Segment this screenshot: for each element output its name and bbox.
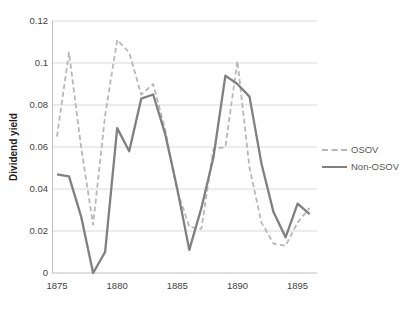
y-tick-label: 0.06 <box>30 141 49 152</box>
osov-dashed-line-sample <box>322 149 347 151</box>
legend-label-non-osov: Non-OSOV <box>351 161 399 172</box>
y-tick-label: 0.1 <box>35 57 48 68</box>
x-tick-label: 1885 <box>167 280 188 291</box>
y-tick-label: 0.02 <box>30 225 49 236</box>
non-osov-solid-line-sample <box>322 166 347 168</box>
legend-label-osov: OSOV <box>351 144 378 155</box>
x-tick-label: 1895 <box>287 280 308 291</box>
x-tick-label: 1880 <box>107 280 128 291</box>
legend-item-osov: OSOV <box>322 144 399 155</box>
x-tick-label: 1890 <box>227 280 248 291</box>
legend-item-non-osov: Non-OSOV <box>322 161 399 172</box>
y-tick-label: 0 <box>43 267 48 278</box>
y-tick-label: 0.12 <box>30 15 49 26</box>
legend: OSOV Non-OSOV <box>322 144 399 172</box>
x-tick-label: 1875 <box>46 280 67 291</box>
y-tick-label: 0.08 <box>30 99 49 110</box>
y-tick-label: 0.04 <box>30 183 49 194</box>
dividend-yield-chart: Dividend yield 00.020.040.060.080.10.121… <box>0 0 399 311</box>
